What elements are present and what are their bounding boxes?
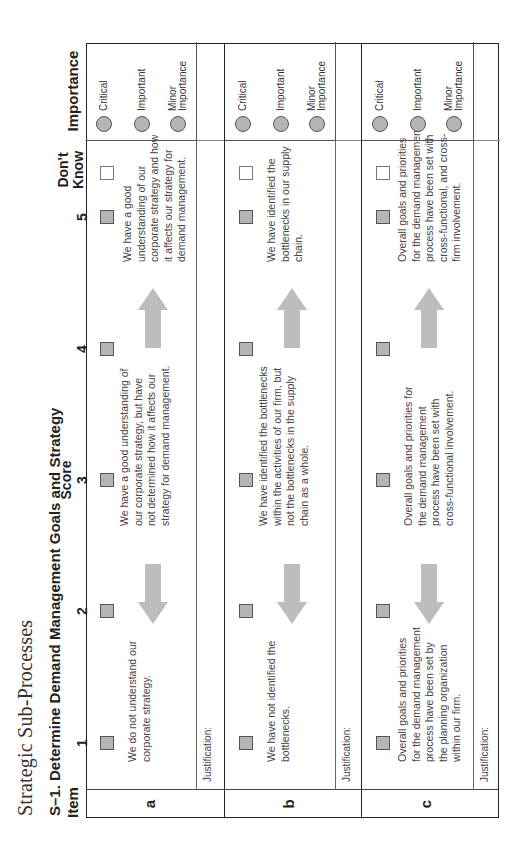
item-letter: b <box>280 790 297 818</box>
importance-label: Minor Importance <box>444 61 464 111</box>
importance-label: Critical <box>99 80 109 111</box>
score-5-checkbox[interactable] <box>376 210 390 224</box>
justification-divider <box>473 141 474 790</box>
radio-circle-icon[interactable] <box>372 116 388 132</box>
item-letter: c <box>417 790 434 818</box>
assessment-page: Strategic Sub-Processes S–1. Determine D… <box>0 0 531 856</box>
importance-critical-option[interactable]: Critical <box>372 80 388 132</box>
importance-cell: Critical Important Minor Importance <box>86 42 197 141</box>
arrow-left-icon <box>138 564 168 624</box>
justification-field[interactable]: Justification: <box>202 727 213 782</box>
importance-label: Minor Importance <box>307 61 327 111</box>
score-2-checkbox[interactable] <box>100 604 114 618</box>
score-3-checkbox[interactable] <box>239 473 253 487</box>
score-5-description: We have identified the bottlenecks in ou… <box>265 127 306 262</box>
radio-circle-icon[interactable] <box>96 116 112 132</box>
importance-label: Important <box>137 69 147 111</box>
importance-label: Important <box>276 69 286 111</box>
header-score: Score <box>58 460 74 500</box>
item-letter: a <box>141 790 158 818</box>
header-item: Item <box>64 787 81 818</box>
importance-critical-option[interactable]: Critical <box>235 80 251 132</box>
score-1-checkbox[interactable] <box>239 736 253 750</box>
score-1-checkbox[interactable] <box>100 736 114 750</box>
score-4-checkbox[interactable] <box>100 342 114 356</box>
radio-circle-icon[interactable] <box>446 116 462 132</box>
header-dont-know-line1: Don't <box>56 145 71 195</box>
score-4-checkbox[interactable] <box>376 342 390 356</box>
importance-critical-option[interactable]: Critical <box>96 80 112 132</box>
importance-minor-option[interactable]: Minor Importance <box>307 61 327 132</box>
importance-label: Critical <box>238 80 248 111</box>
radio-circle-icon[interactable] <box>273 116 289 132</box>
justification-field[interactable]: Justification: <box>341 727 352 782</box>
score-5-checkbox[interactable] <box>239 210 253 224</box>
importance-important-option[interactable]: Important <box>273 69 289 132</box>
importance-label: Minor Importance <box>168 61 188 111</box>
importance-label: Critical <box>375 80 385 111</box>
justification-divider <box>335 141 336 790</box>
score-3-description: We have a good understanding of our corp… <box>118 361 172 526</box>
score-3-description: Overall goals and priorities for the dem… <box>402 386 456 526</box>
score-1-description: Overall goals and priorities for the dem… <box>396 627 464 762</box>
importance-important-option[interactable]: Important <box>410 69 426 132</box>
importance-label-line2: Importance <box>316 61 327 111</box>
importance-label-line2: Importance <box>177 61 188 111</box>
score-1-description: We do not understand our corporate strat… <box>126 637 153 762</box>
importance-cell: Critical Important Minor Importance <box>225 42 336 141</box>
importance-important-option[interactable]: Important <box>134 69 150 132</box>
arrow-left-icon <box>277 564 307 624</box>
score-4-checkbox[interactable] <box>239 342 253 356</box>
table-row-c: c Overall goals and priorities for the d… <box>361 43 499 818</box>
arrow-right-icon <box>414 288 444 348</box>
dont-know-checkbox[interactable] <box>239 166 253 180</box>
score-5-description: Overall goals and priorities for the dem… <box>396 127 464 262</box>
arrow-right-icon <box>277 288 307 348</box>
arrow-left-icon <box>414 564 444 624</box>
score-1-description: We have not identified the bottlenecks. <box>265 637 292 762</box>
importance-cell: Critical Important Minor Importance <box>362 42 474 141</box>
importance-label: Important <box>413 69 423 111</box>
score-3-checkbox[interactable] <box>376 473 390 487</box>
header-dont-know-line2: Know <box>71 145 86 195</box>
importance-minor-option[interactable]: Minor Importance <box>168 61 188 132</box>
score-3-checkbox[interactable] <box>100 473 114 487</box>
section-title: Strategic Sub-Processes <box>14 620 37 816</box>
table-row-a: a We do not understand our corporate str… <box>86 43 224 818</box>
importance-label-line2: Importance <box>453 61 464 111</box>
score-2-checkbox[interactable] <box>376 604 390 618</box>
header-importance: Importance <box>64 41 81 141</box>
score-1-checkbox[interactable] <box>376 736 390 750</box>
radio-circle-icon[interactable] <box>170 116 186 132</box>
dont-know-checkbox[interactable] <box>100 166 114 180</box>
score-5-checkbox[interactable] <box>100 210 114 224</box>
score-2-checkbox[interactable] <box>239 604 253 618</box>
justification-field[interactable]: Justification: <box>479 727 490 782</box>
radio-circle-icon[interactable] <box>134 116 150 132</box>
table-row-b: b We have not identified the bottlenecks… <box>224 43 361 818</box>
arrow-right-icon <box>138 288 168 348</box>
importance-minor-option[interactable]: Minor Importance <box>444 61 464 132</box>
radio-circle-icon[interactable] <box>309 116 325 132</box>
header-dont-know: Don't Know <box>56 145 86 195</box>
dont-know-checkbox[interactable] <box>376 166 390 180</box>
justification-divider <box>196 141 197 790</box>
radio-circle-icon[interactable] <box>410 116 426 132</box>
score-3-description: We have identified the bottlenecks withi… <box>257 361 311 526</box>
radio-circle-icon[interactable] <box>235 116 251 132</box>
score-5-description: We have a good understanding of our corp… <box>121 127 189 262</box>
